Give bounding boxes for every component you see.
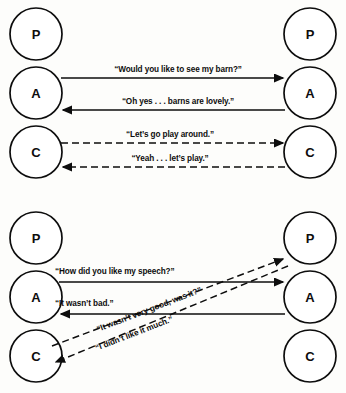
ego-state-right-adult[interactable]: A [284,271,336,323]
ego-label-parent: P [32,231,41,246]
ego-state-right-adult[interactable]: A [284,67,336,119]
ego-label-child: C [305,349,315,364]
transaction-label: “Would you like to see my barn?” [114,65,242,74]
transaction-vectors: “Would you like to see my barn?” “Oh yes… [61,65,285,167]
right-ego-column: P A C [284,8,336,178]
transaction-child-to-child-reply[interactable]: “Yeah . . . let’s play.” [63,154,285,167]
transaction-label: “It wasn’t bad.” [55,299,113,308]
left-ego-column: P A C [10,8,62,178]
transaction-label: “Let’s go play around.” [126,130,214,139]
ego-state-left-adult[interactable]: A [10,271,62,323]
left-ego-column: P A C [10,212,62,382]
ego-label-parent: P [306,27,315,42]
ego-state-left-child[interactable]: C [10,330,62,382]
transaction-adult-to-adult-outgoing[interactable]: “How did you like my speech?” [55,267,283,282]
ego-state-right-child[interactable]: C [284,330,336,382]
ego-label-adult: A [305,86,315,101]
ego-label-child: C [31,349,41,364]
ego-state-right-parent[interactable]: P [284,212,336,264]
transaction-adult-to-adult-reply[interactable]: “Oh yes . . . barns are lovely.” [63,97,285,110]
ego-state-left-parent[interactable]: P [10,212,62,264]
figure-canvas: P A C P A C [0,0,346,393]
ego-label-child: C [31,145,41,160]
ego-label-child: C [305,145,315,160]
ego-state-left-child[interactable]: C [10,126,62,178]
ego-label-adult: A [305,290,315,305]
ego-label-parent: P [32,27,41,42]
ego-state-left-parent[interactable]: P [10,8,62,60]
transaction-adult-to-adult-outgoing[interactable]: “Would you like to see my barn?” [61,65,283,78]
ego-label-adult: A [31,86,41,101]
transaction-child-to-child-outgoing[interactable]: “Let’s go play around.” [61,130,283,143]
ego-state-right-parent[interactable]: P [284,8,336,60]
ego-label-parent: P [306,231,315,246]
ego-state-left-adult[interactable]: A [10,67,62,119]
diagram-crossed-transaction: P A C P A C [0,196,346,393]
diagram-complementary-transaction: P A C P A C [0,0,346,196]
transaction-vectors: “How did you like my speech?” “It wasn’t… [52,259,288,362]
transaction-label: “Yeah . . . let’s play.” [131,154,208,163]
ego-label-adult: A [31,290,41,305]
ego-state-right-child[interactable]: C [284,126,336,178]
right-ego-column: P A C [284,212,336,382]
transaction-label: “How did you like my speech?” [55,267,175,276]
transaction-label: “Oh yes . . . barns are lovely.” [122,97,234,106]
